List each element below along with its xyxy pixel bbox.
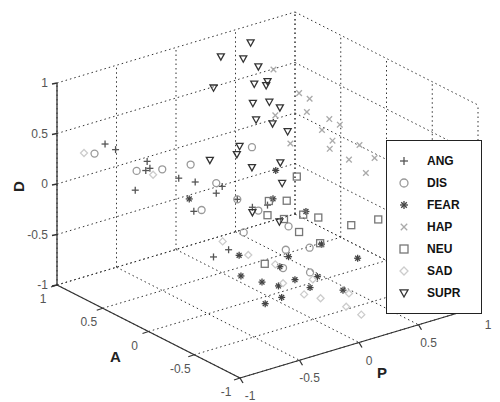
- circle-marker-icon: [91, 150, 98, 157]
- square-marker-icon: [400, 245, 408, 253]
- triangle-down-marker-icon: [255, 64, 262, 70]
- p-tick-label: 1: [485, 318, 492, 332]
- circle-icon: [387, 173, 421, 193]
- legend: ANGDISFEARHAPNEUSADSUPR: [386, 140, 482, 314]
- triangle-down-marker-icon: [217, 54, 224, 60]
- triangle-down-marker-icon: [269, 121, 276, 127]
- d-tick-label: 0: [41, 177, 48, 191]
- triangle-down-marker-icon: [248, 165, 255, 171]
- star-marker-icon: [285, 253, 292, 260]
- star-marker-icon: [259, 279, 266, 286]
- square-marker-icon: [261, 260, 268, 267]
- x-marker-icon: [288, 141, 294, 147]
- triangle-down-marker-icon: [264, 79, 271, 85]
- circle-marker-icon: [285, 223, 292, 230]
- triangle-down-icon: [387, 283, 421, 303]
- plus-marker-icon: [400, 157, 408, 165]
- triangle-down-marker-icon: [276, 219, 283, 225]
- a-axis-label: A: [110, 348, 121, 365]
- triangle-down-marker-icon: [266, 99, 273, 105]
- plus-icon: [387, 151, 421, 171]
- diamond-marker-icon: [317, 295, 324, 302]
- diamond-marker-icon: [219, 238, 226, 245]
- legend-item-fear: FEAR: [387, 195, 481, 215]
- legend-item-ang: ANG: [387, 151, 481, 171]
- star-marker-icon: [307, 284, 314, 291]
- diamond-marker-icon: [345, 290, 352, 297]
- diamond-marker-icon: [150, 171, 157, 178]
- x-marker-icon: [327, 146, 333, 152]
- square-marker-icon: [315, 214, 322, 221]
- circle-marker-icon: [248, 144, 255, 151]
- legend-item-hap: HAP: [387, 217, 481, 237]
- triangle-down-marker-icon: [284, 129, 291, 135]
- x-marker-icon: [363, 170, 369, 176]
- star-marker-icon: [275, 282, 282, 289]
- diamond-icon: [387, 261, 421, 281]
- triangle-down-marker-icon: [279, 180, 286, 186]
- legend-label: DIS: [421, 176, 447, 190]
- p-tick-label: -0.5: [299, 371, 320, 385]
- legend-label: HAP: [421, 220, 452, 234]
- x-marker-icon: [346, 157, 352, 163]
- square-marker-icon: [283, 197, 290, 204]
- x-marker-icon: [327, 116, 333, 122]
- circle-marker-icon: [240, 229, 247, 236]
- diamond-marker-icon: [245, 251, 252, 258]
- a-tick-label: -0.5: [170, 362, 191, 376]
- triangle-down-marker-icon: [206, 157, 213, 163]
- triangle-down-marker-icon: [277, 160, 284, 166]
- star-marker-icon: [291, 276, 298, 283]
- d-tick-label: -1: [37, 278, 48, 292]
- plus-marker-icon: [225, 246, 232, 253]
- p-tick-label: 0: [366, 354, 373, 368]
- data-points: [81, 40, 382, 318]
- star-icon: [387, 195, 421, 215]
- circle-marker-icon: [187, 161, 194, 168]
- triangle-down-marker-icon: [400, 290, 408, 297]
- legend-item-sad: SAD: [387, 261, 481, 281]
- triangle-down-marker-icon: [247, 40, 254, 46]
- p-tick-label: 0.5: [420, 336, 437, 350]
- x-marker-icon: [271, 67, 277, 73]
- plus-marker-icon: [213, 190, 220, 197]
- star-marker-icon: [237, 272, 244, 279]
- legend-item-dis: DIS: [387, 173, 481, 193]
- triangle-down-marker-icon: [210, 85, 217, 91]
- legend-label: SAD: [421, 264, 452, 278]
- circle-marker-icon: [306, 244, 313, 251]
- d-tick-label: -0.5: [27, 228, 48, 242]
- star-marker-icon: [236, 252, 243, 259]
- circle-marker-icon: [307, 269, 314, 276]
- x-marker-icon: [307, 96, 313, 102]
- triangle-down-marker-icon: [276, 105, 283, 111]
- circle-marker-icon: [282, 246, 289, 253]
- x-marker-icon: [273, 113, 279, 119]
- triangle-down-marker-icon: [253, 117, 260, 123]
- triangle-down-marker-icon: [251, 81, 258, 87]
- triangle-down-marker-icon: [236, 143, 243, 149]
- x-marker-icon: [357, 142, 363, 148]
- square-marker-icon: [264, 212, 271, 219]
- diamond-marker-icon: [301, 291, 308, 298]
- circle-marker-icon: [133, 167, 140, 174]
- star-marker-icon: [186, 195, 193, 202]
- d-tick-label: 0.5: [31, 127, 48, 141]
- star-marker-icon: [278, 294, 285, 301]
- square-marker-icon: [375, 216, 382, 223]
- plus-marker-icon: [190, 208, 197, 215]
- diamond-marker-icon: [358, 311, 365, 318]
- circle-marker-icon: [159, 166, 166, 173]
- legend-label: FEAR: [421, 198, 460, 212]
- circle-marker-icon: [198, 207, 205, 214]
- p-axis-label: P: [377, 364, 387, 381]
- circle-marker-icon: [400, 179, 408, 187]
- square-marker-icon: [293, 173, 300, 180]
- d-tick-label: 1: [41, 76, 48, 90]
- a-tick-label: 0: [131, 339, 138, 353]
- plus-marker-icon: [192, 179, 199, 186]
- x-marker-icon: [401, 224, 407, 230]
- x-marker-icon: [319, 127, 325, 133]
- diamond-marker-icon: [81, 150, 88, 157]
- a-tick-label: 0.5: [80, 315, 97, 329]
